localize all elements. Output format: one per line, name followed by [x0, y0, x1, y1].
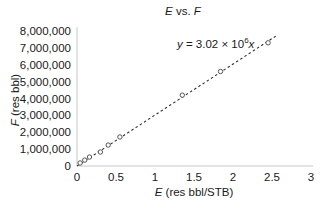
- data-point-marker: [83, 158, 87, 162]
- y-tick-label: 6,000,000: [20, 59, 71, 71]
- x-axis-label: E (res bbl/STB): [155, 186, 234, 198]
- y-tick-label: 4,000,000: [20, 93, 71, 105]
- y-tick-label: 8,000,000: [20, 25, 71, 37]
- data-point-marker: [218, 69, 222, 73]
- y-tick-label: 7,000,000: [20, 42, 71, 54]
- x-tick-label: 0.5: [108, 171, 124, 183]
- y-tick-label: 0: [65, 160, 71, 172]
- y-tick-label: 2,000,000: [20, 126, 71, 138]
- y-tick-label: 1,000,000: [20, 143, 71, 155]
- x-tick-label: 3: [308, 171, 314, 183]
- data-point-marker: [78, 161, 82, 165]
- data-point-marker: [180, 93, 184, 97]
- x-axis-ticks: 00.511.522.53: [74, 171, 314, 183]
- scatter-chart: E vs. F 01,000,0002,000,0003,000,0004,00…: [0, 0, 328, 210]
- chart-title-f: F: [194, 5, 202, 17]
- data-point-marker: [266, 41, 270, 45]
- data-point-marker: [87, 155, 91, 159]
- y-tick-label: 3,000,000: [20, 109, 71, 121]
- y-tick-label: 5,000,000: [20, 76, 71, 88]
- chart-title: E vs. F: [165, 5, 202, 17]
- x-tick-label: 0: [74, 171, 80, 183]
- y-axis-ticks: 01,000,0002,000,0003,000,0004,000,0005,0…: [20, 25, 71, 172]
- data-point-marker: [98, 150, 102, 154]
- x-tick-label: 1.5: [186, 171, 202, 183]
- data-point-marker: [106, 143, 110, 147]
- chart-container: E vs. F 01,000,0002,000,0003,000,0004,00…: [0, 0, 328, 210]
- x-tick-label: 2: [230, 171, 236, 183]
- x-tick-label: 2.5: [264, 171, 280, 183]
- trendline-equation: y = 3.02 × 106x: [176, 36, 256, 50]
- y-axis-label: F (res bbl): [9, 74, 21, 127]
- data-point-marker: [118, 135, 122, 139]
- x-tick-label: 1: [152, 171, 158, 183]
- chart-title-vs: vs.: [173, 5, 194, 17]
